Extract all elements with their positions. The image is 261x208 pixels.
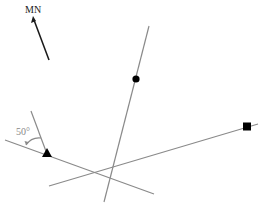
angle-label: 50°: [16, 126, 30, 137]
magnetic-north-indicator: MN: [25, 4, 49, 60]
triangle-marker-icon: [42, 148, 52, 157]
angle-arc: [26, 138, 41, 145]
circle-marker-icon: [132, 75, 139, 82]
line-descending: [5, 140, 154, 194]
line-steep: [104, 26, 149, 202]
line-shallow: [49, 124, 258, 186]
bearing-diagram: MN 50°: [0, 0, 261, 208]
square-marker-icon: [243, 123, 251, 131]
north-arrow-shaft: [34, 20, 49, 60]
north-label: MN: [25, 4, 41, 15]
angle-ray: [31, 111, 47, 154]
